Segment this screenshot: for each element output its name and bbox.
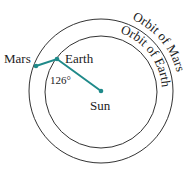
angle-label: 126° <box>50 74 71 86</box>
mars-label: Mars <box>4 51 31 66</box>
earth-label: Earth <box>65 51 94 66</box>
earth-point <box>55 57 60 62</box>
mars-point <box>34 64 39 69</box>
orbit-diagram: Mars Earth 126° Sun Orbit of Mars Orbit … <box>0 0 188 176</box>
sun-point <box>99 89 104 94</box>
sun-label: Sun <box>90 98 111 113</box>
